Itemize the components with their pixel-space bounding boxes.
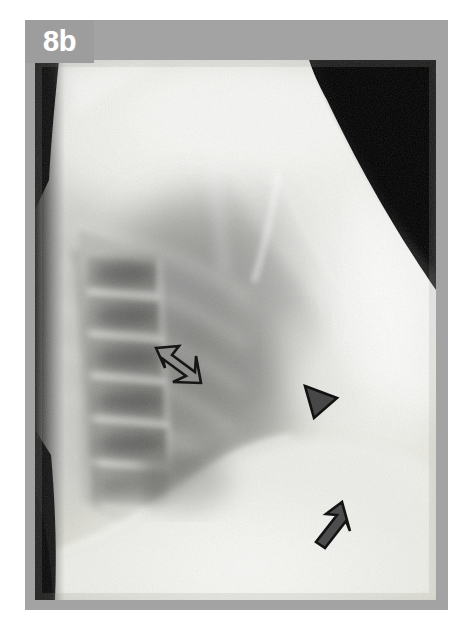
panel-label-badge: 8b — [25, 20, 94, 63]
lateral-chest-radiograph — [35, 60, 436, 600]
figure-root: 8b — [0, 0, 465, 624]
radiograph-canvas — [35, 60, 436, 600]
panel-label-text: 8b — [43, 27, 76, 56]
